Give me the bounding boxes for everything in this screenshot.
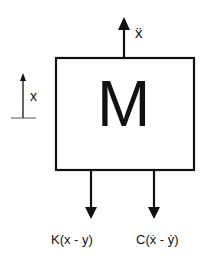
spring-force-arrowhead-icon	[85, 207, 97, 219]
damper-force-label: C(ẋ - ẏ)	[136, 232, 179, 247]
displacement-arrowhead-icon	[20, 73, 26, 81]
spring-force-label: K(x - y)	[51, 232, 93, 247]
mass-label: M	[97, 72, 150, 136]
displacement-label: x	[30, 88, 37, 104]
acceleration-label: ẍ	[135, 24, 143, 41]
acceleration-arrowhead-icon	[118, 17, 130, 30]
damper-force-arrowhead-icon	[148, 207, 160, 219]
